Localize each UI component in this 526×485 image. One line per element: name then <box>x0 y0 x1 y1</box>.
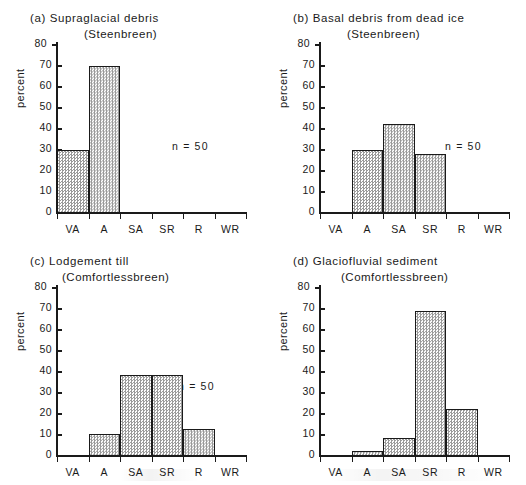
panel-b-y-tick-label-40: 40 <box>303 121 315 133</box>
panel-a-x-tick-6 <box>246 213 247 219</box>
panel-d-y-tick-10: 10 <box>320 434 325 435</box>
panel-d-y-tick-label-0: 0 <box>309 448 315 460</box>
panel-a-x-tick-5 <box>215 213 216 219</box>
panel-b-x-tick-6 <box>509 213 510 219</box>
panel-c-x-tick-2 <box>120 456 121 462</box>
panel-b-y-tick-30: 30 <box>320 149 325 150</box>
panel-c-x-tick-4 <box>183 456 184 462</box>
panel-b-plot-area: 01020304050607080VAASASRRWR <box>320 45 509 213</box>
panel-d-x-tick-2 <box>383 456 384 462</box>
panel-b-y-tick-50: 50 <box>320 107 325 108</box>
panel-c-bar-sr <box>152 375 184 456</box>
panel-d-bar-a <box>352 451 384 456</box>
panel-a-y-tick-label-0: 0 <box>46 205 52 217</box>
panel-c-subtitle: (Comfortlessbreen) <box>62 271 169 283</box>
panel-c-x-tick-5 <box>215 456 216 462</box>
panel-c-bar-r <box>183 429 215 457</box>
panel-a-y-tick-label-40: 40 <box>40 121 52 133</box>
panel-c-y-tick-70: 70 <box>57 308 62 309</box>
panel-a-x-tick-0 <box>57 213 58 219</box>
panel-d-y-tick-70: 70 <box>320 308 325 309</box>
panel-c-y-tick-label-10: 10 <box>40 427 52 439</box>
panel-d-x-tick-6 <box>509 456 510 462</box>
panel-b-bar-sa <box>383 124 415 213</box>
panel-a-bar-a <box>89 66 121 213</box>
panel-a-y-tick-label-70: 70 <box>40 58 52 70</box>
panel-a-x-tick-4 <box>183 213 184 219</box>
panel-b-y-tick-label-10: 10 <box>303 184 315 196</box>
panel-d-y-tick-label-70: 70 <box>303 301 315 313</box>
panel-d-y-tick-label-50: 50 <box>303 343 315 355</box>
panel-b-y-tick-label-70: 70 <box>303 58 315 70</box>
panel-d-y-tick-40: 40 <box>320 371 325 372</box>
panel-d-y-tick-label-80: 80 <box>298 280 310 292</box>
panel-b-x-tick-2 <box>383 213 384 219</box>
panel-c-plot-area: 01020304050607080VAASASRRWR <box>57 288 246 456</box>
panel-a-y-tick-label-30: 30 <box>40 142 52 154</box>
panel-d-y-tick-80: 80 <box>315 287 320 288</box>
panel-d-y-axis-label: percent <box>277 312 289 352</box>
panel-b-y-axis-label: percent <box>277 69 289 109</box>
panel-d-y-tick-label-20: 20 <box>303 406 315 418</box>
panel-c-y-tick-label-20: 20 <box>40 406 52 418</box>
panel-b-y-tick-80: 80 <box>315 44 320 45</box>
panel-b-bar-a <box>352 150 384 213</box>
panel-d-x-tick-3 <box>415 456 416 462</box>
panel-c-y-tick-20: 20 <box>57 413 62 414</box>
panel-d-x-tick-0 <box>320 456 321 462</box>
panel-d-bar-sr <box>415 311 447 456</box>
panel-b-subtitle: (Steenbreen) <box>347 28 420 40</box>
panel-a: (a) Supraglacial debris (Steenbreen) per… <box>0 0 263 242</box>
panel-c-x-tick-0 <box>57 456 58 462</box>
panel-a-y-tick-label-80: 80 <box>35 37 47 49</box>
panel-d-subtitle: (Comfortlessbreen) <box>341 271 448 283</box>
panel-d-x-tick-1 <box>352 456 353 462</box>
panel-a-x-tick-3 <box>152 213 153 219</box>
panel-c-y-tick-80: 80 <box>52 287 57 288</box>
panel-b: (b) Basal debris from dead ice (Steenbre… <box>263 0 526 242</box>
panel-c-y-tick-label-70: 70 <box>40 301 52 313</box>
panel-c-bar-a <box>89 434 121 456</box>
panel-b-y-tick-60: 60 <box>320 86 325 87</box>
panel-a-y-tick-label-10: 10 <box>40 184 52 196</box>
panel-c-y-tick-label-50: 50 <box>40 343 52 355</box>
panel-b-x-label-wr: WR <box>475 223 511 235</box>
panel-c-y-tick-30: 30 <box>57 392 62 393</box>
panel-d-y-tick-label-60: 60 <box>303 322 315 334</box>
panel-c-y-tick-label-30: 30 <box>40 385 52 397</box>
panel-d-y-tick-50: 50 <box>320 350 325 351</box>
panel-a-y-tick-label-50: 50 <box>40 100 52 112</box>
panel-d-y-tick-60: 60 <box>320 329 325 330</box>
scan-artifact <box>0 469 526 481</box>
panel-c-x-tick-1 <box>89 456 90 462</box>
roundness-histogram-figure: (a) Supraglacial debris (Steenbreen) per… <box>0 0 526 485</box>
panel-a-x-tick-2 <box>120 213 121 219</box>
panel-c-x-tick-3 <box>152 456 153 462</box>
panel-c-y-tick-40: 40 <box>57 371 62 372</box>
panel-a-y-tick-label-20: 20 <box>40 163 52 175</box>
panel-b-x-tick-1 <box>352 213 353 219</box>
panel-c-y-axis-label: percent <box>14 312 26 352</box>
panel-a-subtitle: (Steenbreen) <box>84 28 157 40</box>
panel-a-y-axis-label: percent <box>14 69 26 109</box>
panel-d-x-tick-4 <box>446 456 447 462</box>
panel-a-y-tick-40: 40 <box>57 128 62 129</box>
panel-a-y-tick-label-60: 60 <box>40 79 52 91</box>
panel-b-y-tick-70: 70 <box>320 65 325 66</box>
panel-a-title: (a) Supraglacial debris <box>30 12 159 24</box>
panel-c-y-tick-label-80: 80 <box>35 280 47 292</box>
panel-c-bar-sa <box>120 375 152 456</box>
panel-b-y-tick-label-30: 30 <box>303 142 315 154</box>
panel-b-x-tick-0 <box>320 213 321 219</box>
panel-b-y-tick-label-80: 80 <box>298 37 310 49</box>
panel-a-y-tick-70: 70 <box>57 65 62 66</box>
panel-b-bar-sr <box>415 154 447 213</box>
panel-d: (d) Glaciofluvial sediment (Comfortlessb… <box>263 243 526 485</box>
panel-b-title: (b) Basal debris from dead ice <box>293 12 464 24</box>
panel-d-bar-sa <box>383 438 415 456</box>
panel-a-y-tick-50: 50 <box>57 107 62 108</box>
panel-d-y-tick-20: 20 <box>320 413 325 414</box>
panel-d-y-tick-label-10: 10 <box>303 427 315 439</box>
panel-c-y-tick-50: 50 <box>57 350 62 351</box>
panel-d-plot-area: 01020304050607080VAASASRRWR <box>320 288 509 456</box>
